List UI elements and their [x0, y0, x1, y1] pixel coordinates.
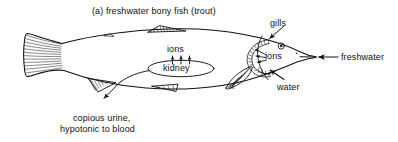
pectoral-fin: [226, 66, 252, 89]
fish-diagram-svg: [0, 0, 398, 142]
gills-label: gills: [270, 18, 286, 29]
forked-tail-fin: [24, 34, 64, 77]
freshwater-label: freshwater: [341, 52, 384, 63]
urinary-duct: [104, 71, 150, 99]
nostril-dot: [296, 53, 297, 54]
pelvic-fin: [152, 84, 178, 91]
urine-label-line2: hypotonic to blood: [60, 124, 135, 135]
water-label: water: [277, 82, 300, 93]
figure-title: (a) freshwater bony fish (trout): [92, 6, 216, 17]
kidney-ions-label: ions: [167, 44, 184, 55]
freshwater-fish-osmoregulation-figure: (a) freshwater bony fish (trout) gills i…: [0, 0, 398, 142]
water-outflow-arrow: [270, 70, 284, 80]
gill-ions-label: ions: [265, 51, 282, 62]
urine-label-line1: copious urine,: [73, 113, 130, 124]
kidney-label: kidney: [163, 63, 190, 74]
